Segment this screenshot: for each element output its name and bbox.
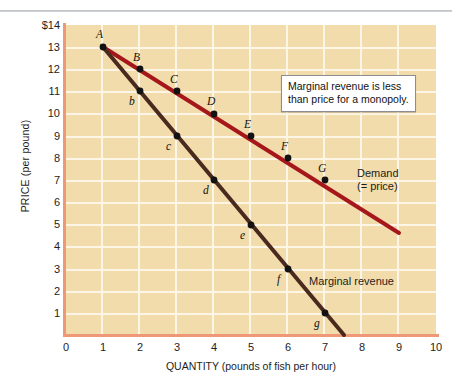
- point-label-G: G: [318, 162, 326, 174]
- point-label-g: g: [314, 317, 320, 329]
- chart-lines-layer: [0, 0, 452, 389]
- point-label-F: F: [281, 140, 288, 152]
- marginal-revenue-series-label: Marginal revenue: [309, 275, 394, 288]
- point-label-A: A: [96, 28, 103, 40]
- point-label-d: d: [203, 184, 209, 196]
- callout-line1: Marginal revenue is less: [288, 80, 409, 93]
- point-label-C: C: [170, 73, 178, 85]
- point-label-E: E: [244, 118, 251, 130]
- demand-series-label: Demand (= price): [357, 167, 399, 193]
- point-label-B: B: [133, 51, 140, 63]
- point-label-c: c: [166, 140, 171, 152]
- callout-box: Marginal revenue is less than price for …: [281, 75, 416, 112]
- demand-series-label-line1: Demand: [357, 167, 399, 180]
- point-label-e: e: [240, 229, 245, 241]
- callout-line2: than price for a monopoly.: [288, 93, 409, 106]
- point-label-b: b: [129, 95, 135, 107]
- point-label-f: f: [277, 273, 280, 285]
- demand-series-label-line2: (= price): [357, 180, 399, 193]
- point-label-D: D: [207, 95, 215, 107]
- figure-container: $14 13 12 11 10 9 8 7 6 5 4 3 2 1 0 1 2 …: [0, 0, 452, 389]
